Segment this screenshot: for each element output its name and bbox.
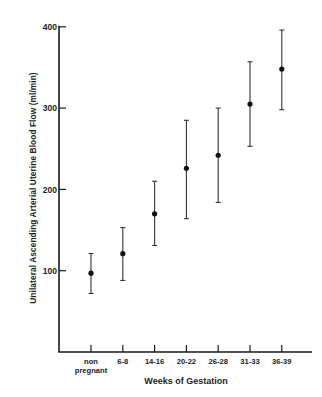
mean-marker: [279, 66, 284, 71]
y-tick-label: 400: [43, 22, 57, 32]
mean-marker: [216, 153, 221, 158]
data-point-group: [152, 181, 157, 245]
y-axis-label: Unilateral Ascending Arterial Uterine Bl…: [28, 72, 38, 303]
data-points: [88, 30, 284, 293]
x-tick-label: pregnant: [75, 366, 108, 375]
mean-marker: [184, 166, 189, 171]
mean-marker: [152, 211, 157, 216]
mean-marker: [120, 251, 125, 256]
y-axis-ticks: 100200300400: [43, 22, 66, 276]
mean-marker: [247, 101, 252, 106]
chart: 100200300400 nonpregnant6-814-1620-2226-…: [0, 0, 322, 397]
x-axis-label: Weeks of Gestation: [144, 376, 227, 386]
x-tick-label: 6-8: [117, 357, 128, 366]
y-tick-label: 100: [43, 266, 57, 276]
data-point-group: [88, 254, 93, 294]
mean-marker: [88, 271, 93, 276]
data-point-group: [184, 120, 189, 218]
x-axis-ticks: nonpregnant6-814-1620-2226-2831-3336-39: [75, 345, 292, 375]
axes: [58, 26, 312, 352]
x-tick-label: 36-39: [272, 357, 291, 366]
x-tick-label: non: [84, 357, 98, 366]
y-tick-label: 300: [43, 103, 57, 113]
x-tick-label: 20-22: [177, 357, 196, 366]
data-point-group: [279, 30, 284, 110]
x-tick-label: 26-28: [208, 357, 227, 366]
x-tick-label: 31-33: [240, 357, 259, 366]
x-tick-label: 14-16: [145, 357, 164, 366]
y-tick-label: 200: [43, 185, 57, 195]
data-point-group: [120, 228, 125, 281]
data-point-group: [216, 108, 221, 202]
data-point-group: [247, 62, 252, 147]
